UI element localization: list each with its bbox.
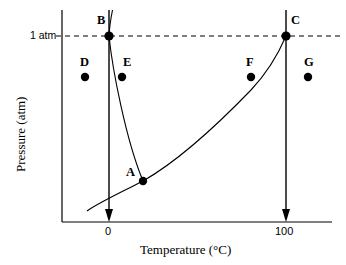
data-point-g[interactable] bbox=[304, 73, 312, 81]
one-atm-axis-label: 1 atm bbox=[30, 30, 56, 41]
phase-diagram-figure: 1 atm 0 100 Temperature (°C) Pressure (a… bbox=[0, 0, 346, 265]
x-tick-label-100: 100 bbox=[275, 226, 293, 237]
data-point-e[interactable] bbox=[118, 73, 126, 81]
point-label-c: C bbox=[291, 14, 300, 27]
point-label-e: E bbox=[123, 56, 131, 69]
hundred-celsius-arrowhead-icon bbox=[282, 209, 290, 222]
data-point-f[interactable] bbox=[247, 73, 255, 81]
zero-celsius-arrowhead-icon bbox=[105, 209, 113, 222]
x-tick-label-0: 0 bbox=[105, 226, 111, 237]
point-label-f: F bbox=[246, 56, 254, 69]
x-axis-title: Temperature (°C) bbox=[140, 243, 231, 256]
data-point-d[interactable] bbox=[81, 73, 89, 81]
y-axis-title: Pressure (atm) bbox=[14, 97, 27, 172]
data-point-b[interactable] bbox=[104, 31, 113, 40]
point-label-d: D bbox=[80, 56, 89, 69]
point-label-b: B bbox=[97, 14, 105, 27]
point-label-a: A bbox=[126, 166, 135, 179]
vaporization-curve bbox=[87, 36, 286, 211]
point-label-g: G bbox=[304, 56, 314, 69]
data-point-a[interactable] bbox=[139, 177, 147, 185]
data-point-c[interactable] bbox=[281, 31, 290, 40]
